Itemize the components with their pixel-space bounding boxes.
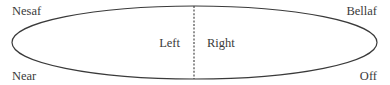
- label-right-half: Right: [207, 36, 235, 50]
- label-bellaf: Bellaf: [346, 4, 377, 18]
- label-nesaf: Nesaf: [12, 4, 42, 18]
- label-off: Off: [360, 69, 378, 83]
- label-near: Near: [12, 69, 37, 83]
- near-off-diagram: Nesaf Near Bellaf Off Left Right: [0, 0, 390, 85]
- label-left-half: Left: [159, 36, 180, 50]
